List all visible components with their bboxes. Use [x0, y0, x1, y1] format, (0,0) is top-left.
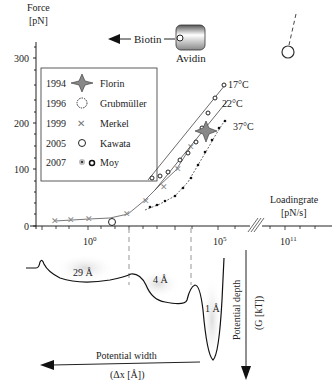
biotin-ligand-icon — [177, 35, 183, 41]
x-tick-10-11: 1011 — [280, 235, 297, 247]
potential-depth-unit: (G [kT]) — [253, 296, 265, 330]
potential-depth-axis: Potential depth (G [kT]) — [231, 250, 265, 380]
temp-22-label: 22°C — [222, 98, 243, 109]
potential-depth-label: Potential depth — [231, 280, 242, 340]
y-axis-title: Force — [27, 2, 50, 13]
x-marker-icon: ✕ — [77, 118, 85, 129]
svg-text:Merkel: Merkel — [100, 118, 129, 129]
svg-text:Kawata: Kawata — [100, 138, 131, 149]
svg-text:✕: ✕ — [187, 142, 195, 152]
y-tick-0: 0 — [24, 221, 29, 232]
svg-text:✕: ✕ — [85, 214, 93, 224]
potential-width-unit: (Δx [Å]) — [110, 369, 144, 381]
y-tick-200: 200 — [14, 118, 29, 129]
avidin-label: Avidin — [176, 52, 206, 64]
svg-text:Moy: Moy — [100, 157, 119, 168]
x-tick-10-5: 105 — [213, 235, 227, 247]
svg-text:Florin: Florin — [100, 78, 124, 89]
svg-text:1999: 1999 — [46, 118, 66, 129]
figure-canvas: Biotin Avidin Force [pN] — [0, 0, 332, 384]
well-29a-label: 29 Å — [73, 267, 94, 278]
dashed-tether — [289, 14, 296, 45]
well-1a-label: 1 Å — [205, 303, 221, 314]
svg-text:2007: 2007 — [46, 157, 66, 168]
svg-text:1996: 1996 — [46, 98, 66, 109]
y-tick-300: 300 — [14, 53, 29, 64]
energy-landscape: 29 Å 4 Å 1 Å — [26, 254, 224, 365]
x-axis: 100 105 1011 Loadingrate [pN/s] — [30, 194, 332, 247]
bold-circle-marker-icon — [90, 161, 95, 166]
x-axis-title: Loadingrate — [270, 194, 319, 205]
legend: 1994 Florin 1996 Grubmüller 1999 ✕ Merke… — [41, 68, 157, 181]
moy-dot-markers — [149, 120, 227, 209]
y-tick-100: 100 — [14, 164, 29, 175]
svg-text:✕: ✕ — [123, 209, 131, 219]
biotin-label: Biotin — [134, 33, 162, 45]
y-axis-unit: [pN] — [29, 15, 48, 26]
open-circle-marker-icon — [79, 140, 86, 147]
svg-text:2005: 2005 — [46, 138, 66, 149]
dotted-circle-marker-icon — [77, 98, 87, 108]
svg-text:✕: ✕ — [67, 215, 75, 225]
biotin-avidin-schematic: Biotin Avidin — [108, 14, 296, 64]
x-tick-10-0: 100 — [83, 235, 97, 247]
axis-break-icon — [248, 218, 258, 232]
detached-bead-icon — [282, 46, 294, 58]
temp-37-label: 37°C — [233, 121, 254, 132]
potential-curve — [26, 258, 224, 360]
well-4a-label: 4 Å — [153, 274, 169, 285]
svg-text:✕: ✕ — [142, 196, 150, 206]
svg-text:1994: 1994 — [46, 78, 66, 89]
temp-17-label: 17°C — [228, 79, 249, 90]
left-arrow-icon — [40, 360, 54, 370]
x-axis-unit: [pN/s] — [281, 207, 307, 218]
down-arrow-icon — [241, 366, 251, 380]
potential-width-axis: Potential width (Δx [Å]) — [40, 350, 200, 381]
potential-width-label: Potential width — [96, 350, 157, 361]
kawata-point — [109, 219, 116, 226]
svg-text:✕: ✕ — [51, 216, 59, 226]
svg-text:Grubmüller: Grubmüller — [100, 98, 147, 109]
svg-text:✕: ✕ — [160, 182, 168, 192]
